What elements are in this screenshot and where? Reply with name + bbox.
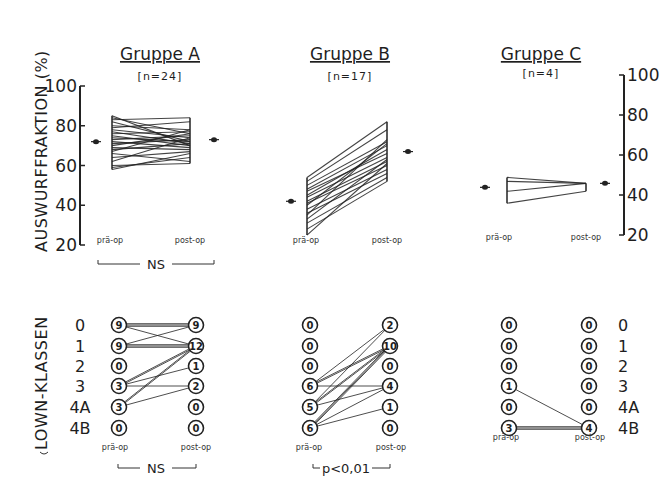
lown-post-count: 10 (383, 339, 398, 354)
svg-text:0: 0 (506, 361, 513, 372)
svg-text:6: 6 (307, 423, 314, 434)
lown-pre-count: 3 (112, 379, 127, 394)
svg-text:0: 0 (116, 423, 123, 434)
lown-class-label: 4A (618, 398, 639, 417)
svg-text:0: 0 (387, 361, 394, 372)
lown-post-count: 12 (189, 339, 204, 354)
lown-post-count: 1 (189, 359, 204, 374)
y-tick-label: 100 (45, 76, 77, 96)
lown-post-count: 4 (383, 379, 398, 394)
group-c-n: [n=4] (523, 67, 560, 80)
svg-text:0: 0 (586, 341, 593, 352)
svg-text:3: 3 (116, 402, 123, 413)
lown-pre-count: 0 (502, 359, 517, 374)
lown-class-label: 2 (618, 357, 628, 376)
lown-pre-count: 0 (112, 359, 127, 374)
svg-text:9: 9 (116, 341, 123, 352)
y-tick-label: 80 (627, 105, 649, 125)
ef-c-post-label: post-op (571, 233, 601, 242)
svg-text:4: 4 (586, 423, 593, 434)
lown-post-count: 0 (582, 400, 597, 415)
svg-text:0: 0 (586, 381, 593, 392)
lown-a-post-label: post-op (181, 443, 211, 452)
lown-pre-count: 1 (502, 379, 517, 394)
lown-post-count: 0 (582, 379, 597, 394)
svg-text:3: 3 (116, 381, 123, 392)
svg-text:9: 9 (116, 320, 123, 331)
ef-b-pre-label: prä-op (293, 236, 319, 245)
ef-a-post-label: post-op (175, 236, 205, 245)
lown-pre-count: 0 (303, 359, 318, 374)
lown-class-labels-left: 01234A4B (69, 316, 90, 438)
y-tick-label: 80 (55, 116, 77, 136)
svg-text:2: 2 (387, 320, 394, 331)
right-y-axis: 20406080100 (619, 65, 659, 245)
group-c-title: Gruppe C (501, 44, 581, 64)
y-tick-label: 60 (55, 156, 77, 176)
svg-text:0: 0 (116, 361, 123, 372)
group-b-title: Gruppe B (310, 44, 390, 64)
svg-text:2: 2 (193, 381, 200, 392)
lown-a-significance-bracket: NS (118, 461, 196, 476)
ef-a-pre-label: prä-op (97, 236, 123, 245)
lown-post-count: 0 (189, 400, 204, 415)
svg-text:1: 1 (387, 402, 394, 413)
lown-class-label: 3 (618, 377, 628, 396)
lown-b-post-label: post-op (376, 443, 406, 452)
lown-plots: 99033091212000006562100410000103000004 (112, 318, 597, 436)
lown-class-labels-right: 01234A4B (618, 316, 639, 438)
svg-text:9: 9 (193, 320, 200, 331)
svg-text:6: 6 (307, 381, 314, 392)
lown-pre-count: 6 (303, 379, 318, 394)
svg-text:5: 5 (307, 402, 314, 413)
lown-pre-count: 0 (502, 400, 517, 415)
svg-text:0: 0 (307, 341, 314, 352)
ef-a-significance-bracket: NS (98, 257, 214, 272)
lown-post-count: 0 (189, 421, 204, 436)
svg-text:4: 4 (387, 381, 394, 392)
lown-pre-count: 0 (502, 318, 517, 333)
lown-post-count: 2 (383, 318, 398, 333)
lown-pre-count: 0 (303, 318, 318, 333)
lown-class-label: 0 (75, 316, 85, 335)
lown-c-post-label: post-op (575, 433, 605, 442)
lown-post-count: 1 (383, 400, 398, 415)
ef-b-post-label: post-op (372, 236, 402, 245)
lown-class-label: 4B (618, 419, 639, 438)
lown-axis-label: LOWN-KLASSEN (32, 316, 51, 450)
ef-group-1 (286, 122, 413, 235)
group-a-title: Gruppe A (120, 44, 200, 64)
svg-text:0: 0 (586, 320, 593, 331)
lown-pre-count: 9 (112, 339, 127, 354)
svg-text:0: 0 (387, 423, 394, 434)
lown-class-label: 2 (75, 357, 85, 376)
lown-pre-count: 0 (502, 339, 517, 354)
lown-pre-count: 0 (303, 339, 318, 354)
y-tick-label: 100 (627, 65, 659, 85)
lown-class-label: 4B (69, 419, 90, 438)
svg-text:1: 1 (506, 381, 513, 392)
lown-pre-count: 9 (112, 318, 127, 333)
svg-text:0: 0 (193, 423, 200, 434)
y-tick-label: 40 (55, 195, 77, 215)
group-b-n: [n=17] (328, 70, 373, 83)
lown-class-label: 4A (69, 398, 90, 417)
y-tick-label: 20 (627, 225, 649, 245)
lown-class-label: 3 (75, 377, 85, 396)
y-tick-label: 20 (55, 235, 77, 255)
svg-text:0: 0 (586, 361, 593, 372)
lown-class-label: 1 (618, 337, 628, 356)
lown-post-count: 0 (582, 359, 597, 374)
lown-class-label: 0 (618, 316, 628, 335)
lown-pre-count: 5 (303, 400, 318, 415)
ef-group-0 (91, 116, 219, 170)
lown-post-count: 9 (189, 318, 204, 333)
lown-b-pre-label: prä-op (296, 443, 322, 452)
figure: Gruppe A [n=24] Gruppe B [n=17] Gruppe C… (0, 0, 672, 501)
svg-text:10: 10 (383, 341, 397, 352)
lown-pre-count: 6 (303, 421, 318, 436)
svg-text:0: 0 (307, 361, 314, 372)
y-tick-label: 60 (627, 145, 649, 165)
svg-text:0: 0 (506, 402, 513, 413)
lown-a-significance: NS (147, 461, 165, 476)
